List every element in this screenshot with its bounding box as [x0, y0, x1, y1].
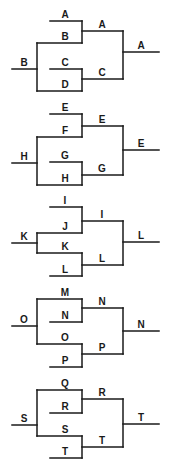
slot-label: R — [61, 401, 69, 412]
winner-label: N — [137, 319, 144, 330]
bracket-3: KIJKLILL — [12, 195, 159, 276]
slot-label: G — [61, 150, 69, 161]
entry-label: H — [20, 151, 27, 162]
slot-label: F — [62, 125, 68, 136]
slot-label: C — [61, 57, 68, 68]
winner-label: A — [137, 40, 144, 51]
bracket-1: BABCDACA — [12, 9, 159, 91]
entry-label: K — [20, 231, 28, 242]
semi-label: R — [98, 387, 106, 398]
semi-label: C — [98, 67, 105, 78]
slot-label: Q — [61, 378, 69, 389]
semi-label: L — [99, 253, 105, 264]
semi-label: T — [99, 435, 105, 446]
bracket-2: HEFGHEGE — [12, 102, 159, 185]
semi-label: G — [98, 163, 106, 174]
slot-label: I — [64, 195, 67, 206]
slot-label: P — [62, 355, 69, 366]
winner-label: E — [138, 138, 145, 149]
winner-label: L — [138, 230, 144, 241]
slot-label: B — [61, 31, 68, 42]
slot-label: A — [61, 9, 68, 20]
semi-label: A — [98, 19, 105, 30]
entry-label: S — [21, 413, 28, 424]
semi-label: I — [101, 209, 104, 220]
bracket-5: SQRSTRTT — [12, 378, 159, 458]
bracket-4: OMNOPNPN — [12, 287, 159, 367]
slot-label: N — [61, 310, 68, 321]
entry-label: O — [20, 314, 28, 325]
semi-label: E — [99, 114, 106, 125]
semi-label: P — [99, 342, 106, 353]
winner-label: T — [138, 412, 144, 423]
slot-label: M — [61, 287, 69, 298]
slot-label: K — [61, 241, 69, 252]
slot-label: D — [61, 79, 68, 90]
entry-label: B — [20, 57, 27, 68]
slot-label: J — [62, 221, 68, 232]
slot-label: H — [61, 173, 68, 184]
slot-label: E — [62, 102, 69, 113]
slot-label: L — [62, 264, 68, 275]
bracket-diagram: BABCDACAHEFGHEGEKIJKLILLOMNOPNPNSQRSTRTT — [0, 0, 170, 474]
slot-label: S — [62, 424, 69, 435]
slot-label: O — [61, 332, 69, 343]
semi-label: N — [98, 296, 105, 307]
slot-label: T — [62, 446, 68, 457]
